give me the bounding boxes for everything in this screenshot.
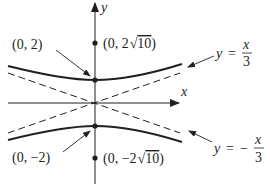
- vertex-bottom-label: (0, −2): [12, 150, 51, 166]
- asymptote-negative-pointer-arrow: [189, 131, 212, 142]
- svg-text:x: x: [242, 37, 250, 52]
- svg-text:(0, −2√10): (0, −2√10): [103, 151, 164, 167]
- svg-text:(0, 2√10): (0, 2√10): [103, 36, 156, 52]
- focus-top-label: (0, 2√10): [103, 36, 156, 52]
- svg-text:x: x: [254, 132, 262, 147]
- svg-text:y: y: [212, 141, 221, 156]
- vertex-bottom-pointer-arrow: [63, 131, 90, 152]
- asymptote-negative-label: y = − x 3: [212, 132, 264, 165]
- asymptote-positive-pointer-arrow: [188, 56, 214, 67]
- svg-text:y: y: [214, 46, 223, 61]
- svg-text:=: =: [228, 46, 236, 61]
- svg-text:3: 3: [243, 54, 250, 69]
- svg-text:=: =: [226, 141, 234, 156]
- y-axis-label: y: [99, 0, 108, 15]
- vertex-top-dot: [92, 77, 97, 82]
- vertex-top-label: (0, 2): [12, 37, 43, 53]
- focus-bottom-dot: [92, 155, 97, 160]
- hyperbola-figure: y x (0, 2) (0, −2) (0, 2√10) (0, −2√10) …: [0, 0, 270, 184]
- vertex-top-pointer-arrow: [56, 50, 90, 76]
- svg-text:−: −: [240, 141, 248, 156]
- vertex-bottom-dot: [92, 123, 97, 128]
- focus-top-dot: [92, 40, 97, 45]
- focus-bottom-label: (0, −2√10): [103, 151, 164, 167]
- asymptote-positive-label: y = x 3: [214, 37, 252, 69]
- x-axis-label: x: [180, 84, 188, 99]
- svg-text:3: 3: [255, 150, 262, 165]
